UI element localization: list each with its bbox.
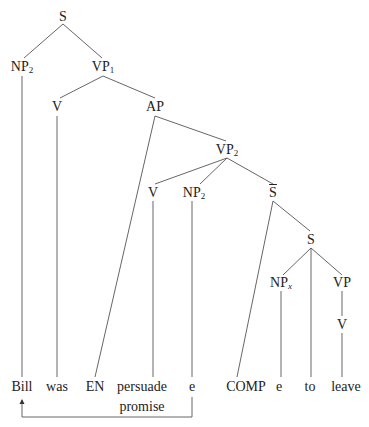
node-S_inner: S: [307, 233, 315, 247]
tree-edge: [103, 76, 155, 98]
node-VP1: VP1: [92, 60, 114, 75]
leaf-leave: leave: [331, 380, 361, 394]
movement-arrow: [22, 397, 192, 417]
tree-edge: [273, 201, 310, 231]
node-VP2: VP2: [216, 143, 238, 158]
leaf-was: was: [46, 380, 68, 394]
tree-edge: [60, 76, 103, 98]
leaf-persuade: persuade: [117, 380, 167, 394]
node-S_root: S: [59, 10, 67, 24]
node-Sbar: S: [269, 186, 277, 200]
leaf-to: to: [305, 380, 316, 394]
node-NPx: NPx: [270, 276, 292, 291]
tree-edge: [283, 248, 311, 275]
tree-edge: [155, 158, 227, 184]
tree-edge: [63, 24, 102, 58]
node-AP: AP: [146, 100, 164, 114]
tree-edges: [0, 0, 369, 427]
leaf-promise: promise: [119, 400, 164, 414]
node-V_persuade: V: [148, 186, 158, 200]
leaf-en: EN: [86, 380, 105, 394]
leaf-e1: e: [189, 380, 195, 394]
tree-edge: [95, 116, 155, 377]
node-V_leave: V: [337, 318, 347, 332]
arrowhead-icon: [20, 399, 25, 404]
tree-edge: [227, 158, 273, 184]
tree-edge: [311, 248, 342, 275]
node-V_was: V: [52, 100, 62, 114]
leaf-bill: Bill: [11, 380, 32, 394]
tree-edge: [237, 201, 273, 377]
leaf-e2: e: [276, 380, 282, 394]
node-NP2_obj: NP2: [183, 186, 205, 201]
tree-edge: [24, 24, 63, 58]
tree-edge: [155, 116, 226, 141]
node-VP_inner: VP: [333, 276, 351, 290]
leaf-comp: COMP: [226, 380, 266, 394]
node-NP2_subj: NP2: [11, 60, 33, 75]
tree-edge: [200, 158, 227, 184]
